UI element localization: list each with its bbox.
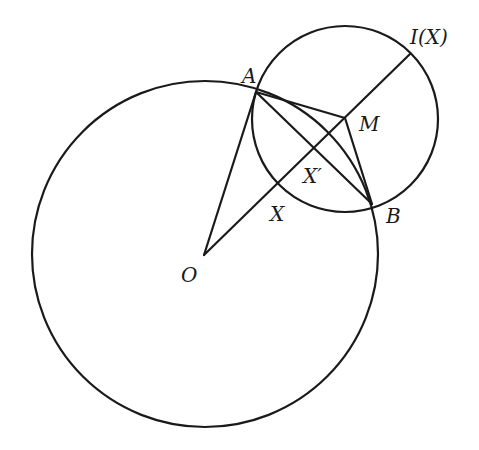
label-o: O bbox=[181, 263, 197, 287]
label-b: B bbox=[385, 204, 401, 228]
geometry-diagram: A M I(X) X′ X B O bbox=[0, 0, 479, 450]
label-x: X bbox=[268, 202, 285, 226]
label-a: A bbox=[240, 64, 256, 88]
label-ix: I(X) bbox=[409, 25, 448, 49]
label-x-prime: X′ bbox=[301, 164, 322, 188]
label-m: M bbox=[358, 112, 380, 136]
